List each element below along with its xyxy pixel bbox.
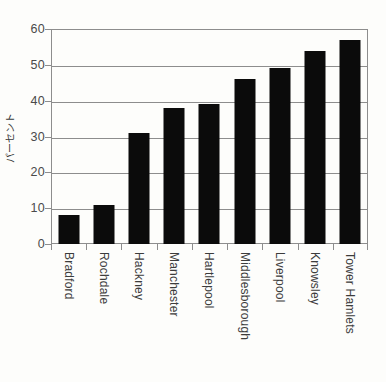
- x-axis-category-label-text: Hackney: [132, 252, 146, 300]
- y-axis-tick-label: 60: [30, 22, 45, 36]
- bar[interactable]: [234, 79, 255, 244]
- x-axis-category-label-text: Knowsley: [308, 252, 322, 305]
- x-axis-category-label-text: Rochdale: [97, 252, 111, 304]
- x-axis-category-label: Knowsley: [298, 252, 333, 378]
- bar-slot: [227, 29, 262, 244]
- x-axis-category-label-text: Tower Hamlets: [343, 252, 357, 334]
- bar[interactable]: [164, 108, 185, 244]
- bar-slot: [333, 29, 368, 244]
- x-axis-category-label: Bradford: [51, 252, 86, 378]
- x-axis-category-label: Manchester: [157, 252, 192, 378]
- x-axis-tick-mark: [298, 244, 299, 250]
- bar[interactable]: [58, 215, 79, 244]
- x-axis-tick-marks: [51, 244, 368, 251]
- y-axis-tick-label: 30: [30, 130, 45, 144]
- bar-slot: [298, 29, 333, 244]
- x-axis-category-label-text: Bradford: [62, 252, 76, 300]
- x-axis-category-label: Hartlepool: [192, 252, 227, 378]
- y-axis-tick-label: 20: [30, 165, 45, 179]
- bar[interactable]: [305, 51, 326, 245]
- y-axis-title: パーセント: [0, 96, 22, 180]
- chart-page: パーセント 0102030405060 BradfordRochdaleHack…: [0, 0, 386, 382]
- x-axis-category-label-text: Middlesborough: [238, 252, 252, 340]
- x-axis-tick-mark: [262, 244, 263, 250]
- bar-slot: [51, 29, 86, 244]
- x-axis-category-label-text: Manchester: [167, 252, 181, 317]
- x-axis-tick-mark: [333, 244, 334, 250]
- y-axis-tick-label: 50: [30, 58, 45, 72]
- x-axis-tick-mark: [157, 244, 158, 250]
- x-axis-category-label: Middlesborough: [227, 252, 262, 378]
- x-axis-tick-mark: [367, 244, 368, 250]
- x-axis-category-label-text: Hartlepool: [202, 252, 216, 309]
- bar-slot: [192, 29, 227, 244]
- bar[interactable]: [129, 133, 150, 244]
- bar[interactable]: [269, 68, 290, 244]
- bar[interactable]: [340, 40, 361, 244]
- x-axis-category-label: Liverpool: [262, 252, 297, 378]
- bar-slot: [121, 29, 156, 244]
- x-axis-tick-mark: [51, 244, 52, 250]
- bar[interactable]: [93, 205, 114, 244]
- x-axis-tick-mark: [227, 244, 228, 250]
- bar-slot: [262, 29, 297, 244]
- y-axis-tick-label: 10: [30, 201, 45, 215]
- y-axis-tick-label: 40: [30, 94, 45, 108]
- x-axis-category-labels: BradfordRochdaleHackneyManchesterHartlep…: [51, 252, 368, 378]
- x-axis-tick-mark: [192, 244, 193, 250]
- bar-slot: [157, 29, 192, 244]
- x-axis-tick-mark: [121, 244, 122, 250]
- y-axis-tick-label: 0: [38, 237, 45, 251]
- bar-slot: [86, 29, 121, 244]
- y-axis-title-label: パーセント: [6, 113, 16, 163]
- x-axis-category-label: Tower Hamlets: [333, 252, 368, 378]
- x-axis-tick-mark: [86, 244, 87, 250]
- bar[interactable]: [199, 104, 220, 244]
- x-axis-category-label: Rochdale: [86, 252, 121, 378]
- bar-series: [51, 29, 368, 244]
- x-axis-category-label-text: Liverpool: [273, 252, 287, 303]
- x-axis-category-label: Hackney: [121, 252, 156, 378]
